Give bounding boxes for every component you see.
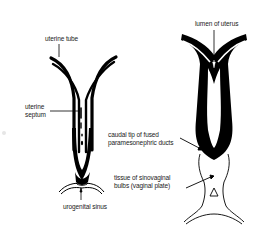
label-urogenital-sinus: urogenital sinus [63,203,107,211]
right-figure-uterus-late [181,30,247,160]
label-lumen-of-uterus: lumen of uterus [195,20,238,28]
label-uterine-septum-line1: uterine [25,103,44,111]
left-figure-uterus-early [51,57,116,152]
diagram-canvas: uterine tube uterine septum urogenital s… [0,0,261,230]
scan-artifact [2,131,6,135]
label-caudal-tip-line1: caudal tip of fused [108,131,159,139]
label-sinovaginal-line1: tissue of sinovaginal [114,174,170,182]
left-figure-lower-body [72,128,93,185]
vaginal-plate-shape [184,154,244,224]
label-uterine-septum-line2: septum [25,111,46,119]
label-sinovaginal-line2: bulbs (vaginal plate) [114,182,170,190]
label-uterine-tube: uterine tube [45,35,78,43]
label-caudal-tip-line2: paramesonephric ducts [108,139,173,147]
